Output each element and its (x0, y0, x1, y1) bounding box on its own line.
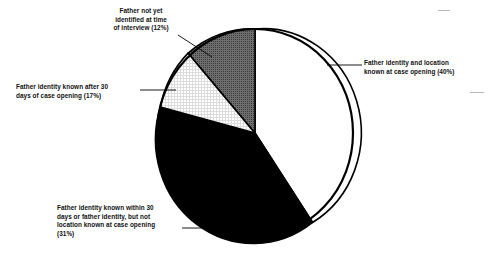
pie-label-identity-within-30-days: Father identity known within 30 days or … (57, 204, 185, 238)
pie-label-identity-and-location: Father identity and location known at ca… (364, 59, 486, 76)
pie-label-identity-after-30-days: Father identity known after 30 days of c… (16, 83, 138, 100)
scan-artifact-right (470, 92, 484, 93)
pie-label-not-yet-identified: Father not yet identified at time of int… (104, 7, 178, 33)
pie-chart-figure: Father not yet identified at time of int… (0, 0, 488, 264)
scan-artifact-top (438, 10, 450, 11)
